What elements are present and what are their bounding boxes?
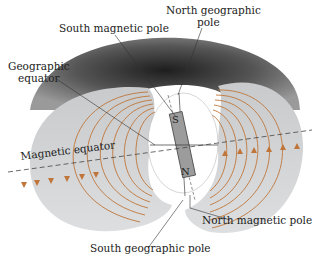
- label-geographic-equator-line1: Geographic: [8, 61, 70, 72]
- label-south-magnetic-pole: South magnetic pole: [59, 23, 169, 34]
- label-north-geographic-pole-line2: pole: [197, 17, 220, 28]
- label-north-magnetic-pole: North magnetic pole: [202, 215, 312, 226]
- label-north-geographic-pole-line1: North geographic: [166, 5, 261, 16]
- label-south-geographic-pole: South geographic pole: [90, 243, 211, 254]
- magnet-s-label: S: [172, 114, 179, 125]
- label-geographic-equator-line2: equator: [18, 73, 60, 84]
- earth-magnetic-field-diagram: South magnetic pole North geographic pol…: [0, 0, 317, 265]
- magnet-n-label: N: [181, 166, 190, 177]
